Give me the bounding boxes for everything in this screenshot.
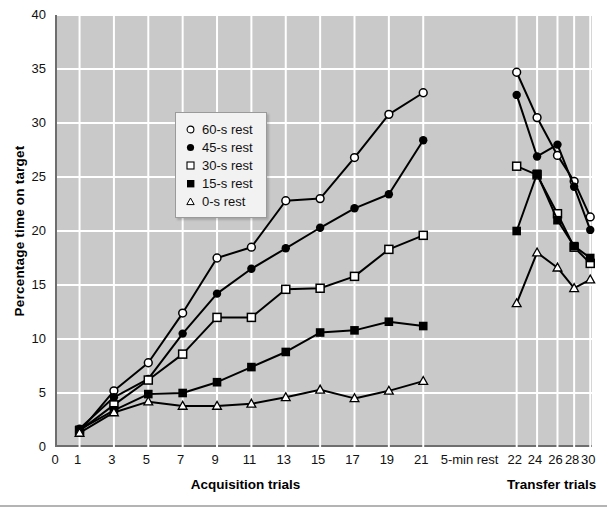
x-tick-label: 22 xyxy=(507,452,521,467)
series-60-s-rest xyxy=(76,68,594,435)
open-triangle-icon xyxy=(185,196,196,207)
x-tick-label: 30 xyxy=(581,452,595,467)
x-tick-label: 1 xyxy=(74,452,81,467)
legend-item: 30-s rest xyxy=(185,156,253,174)
y-tick-label: 35 xyxy=(0,62,46,75)
x-tick-label: 11 xyxy=(243,452,257,467)
legend-label: 60-s rest xyxy=(202,122,253,137)
x-tick-label: 19 xyxy=(380,452,394,467)
series-45-s-rest xyxy=(75,91,594,433)
plot-area: 60-s rest 45-s rest 30-s rest 15-s rest xyxy=(55,15,592,447)
legend-item: 0-s rest xyxy=(185,192,253,210)
legend: 60-s rest 45-s rest 30-s rest 15-s rest xyxy=(175,112,267,218)
y-tick-label: 5 xyxy=(0,386,46,399)
x-tick-label: 26 xyxy=(548,452,562,467)
y-tick-label: 40 xyxy=(0,8,46,21)
x-tick-label: 3 xyxy=(108,452,115,467)
legend-item: 15-s rest xyxy=(185,174,253,192)
y-tick-label: 25 xyxy=(0,170,46,183)
open-square-icon xyxy=(185,160,196,171)
legend-item: 45-s rest xyxy=(185,138,253,156)
series-0-s-rest xyxy=(75,248,594,436)
legend-label: 45-s rest xyxy=(202,140,253,155)
x-tick-label: 9 xyxy=(211,452,218,467)
chart-figure: Percentage time on target 05101520253035… xyxy=(0,0,607,518)
y-tick-label: 0 xyxy=(0,440,46,453)
x-tick-label: 5-min rest xyxy=(441,452,499,467)
x-tick-label: 24 xyxy=(528,452,542,467)
data-series-layer xyxy=(57,15,594,447)
footer-divider xyxy=(0,505,607,507)
phase-label: Transfer trials xyxy=(507,477,596,492)
phase-label: Acquisition trials xyxy=(191,477,301,492)
x-tick-label: 13 xyxy=(277,452,291,467)
open-circle-icon xyxy=(185,124,196,135)
legend-label: 15-s rest xyxy=(202,176,253,191)
y-tick-label: 10 xyxy=(0,332,46,345)
y-tick-label: 20 xyxy=(0,224,46,237)
y-tick-label: 15 xyxy=(0,278,46,291)
y-tick-label: 30 xyxy=(0,116,46,129)
x-tick-label: 21 xyxy=(414,452,428,467)
x-tick-label: 5 xyxy=(143,452,150,467)
legend-item: 60-s rest xyxy=(185,120,253,138)
legend-label: 30-s rest xyxy=(202,158,253,173)
x-tick-label: 28 xyxy=(565,452,579,467)
filled-square-icon xyxy=(185,178,196,189)
x-tick-label: 15 xyxy=(311,452,325,467)
filled-circle-icon xyxy=(185,142,196,153)
x-tick-label: 0 xyxy=(51,452,58,467)
x-tick-label: 17 xyxy=(345,452,359,467)
x-tick-label: 7 xyxy=(177,452,184,467)
legend-label: 0-s rest xyxy=(202,194,245,209)
